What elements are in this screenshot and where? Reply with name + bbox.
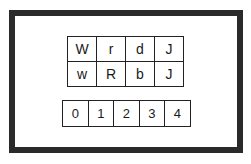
digit-cell: 2	[114, 101, 140, 127]
digit-cell: 4	[165, 101, 191, 127]
letter-grid-row: w R b J	[68, 62, 184, 87]
letter-cell: w	[68, 62, 97, 87]
digit-row-cells: 0 1 2 3 4	[63, 101, 191, 127]
letter-cell: r	[97, 37, 126, 62]
digit-cell: 0	[63, 101, 89, 127]
letter-cell: b	[126, 62, 155, 87]
letter-cell: R	[97, 62, 126, 87]
digit-cell: 1	[88, 101, 114, 127]
digit-cell: 3	[139, 101, 165, 127]
letter-cell: J	[155, 37, 184, 62]
letter-cell: J	[155, 62, 184, 87]
letter-cell: W	[68, 37, 97, 62]
digit-row: 0 1 2 3 4	[62, 100, 191, 127]
letter-grid-row: W r d J	[68, 37, 184, 62]
letter-grid: W r d J w R b J	[67, 36, 184, 87]
letter-cell: d	[126, 37, 155, 62]
